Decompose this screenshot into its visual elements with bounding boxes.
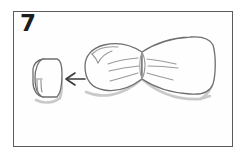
step-panel: 7 [0, 0, 248, 159]
instruction-illustration [0, 0, 248, 159]
direction-arrow [66, 73, 85, 85]
